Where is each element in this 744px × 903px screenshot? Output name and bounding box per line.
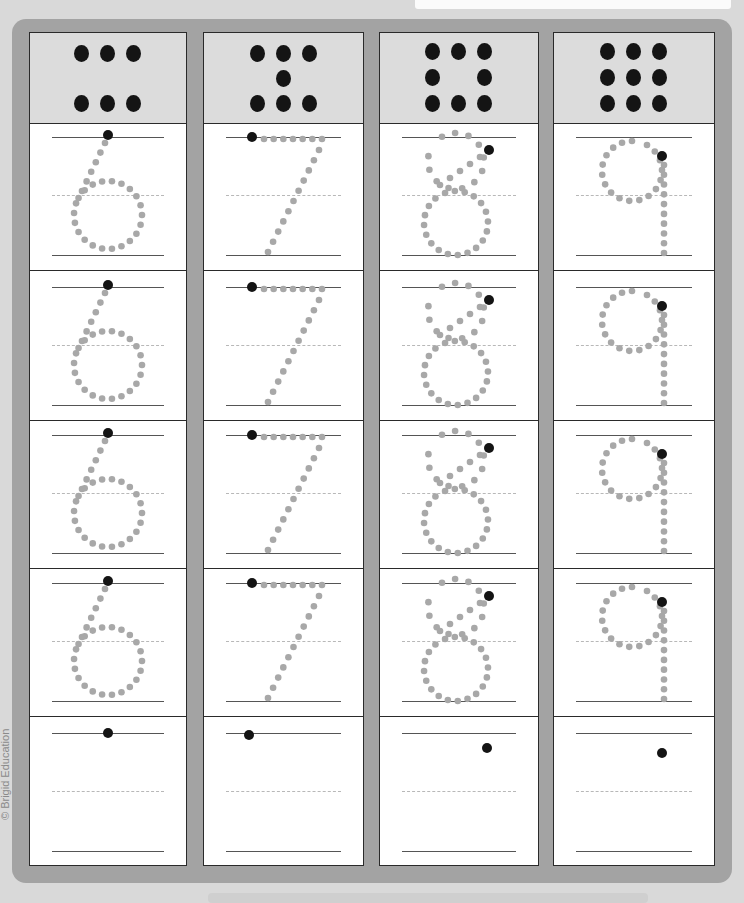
digit-7-trace-path (204, 569, 362, 719)
count-dot (425, 69, 440, 86)
count-dot (477, 95, 492, 112)
start-dot (484, 295, 494, 305)
digit-8-trace-path (380, 273, 537, 423)
digit-8-trace-path (380, 123, 537, 273)
digit-7-trace-path (204, 123, 362, 273)
count-dot (302, 95, 317, 112)
start-dot (657, 151, 667, 161)
count-dot (477, 69, 492, 86)
dot-card-9 (554, 33, 714, 124)
digit-7-trace-path (204, 421, 362, 571)
digit-7-trace-path (204, 273, 362, 423)
start-dot (247, 282, 257, 292)
start-dot (484, 591, 494, 601)
trace-cell[interactable] (30, 569, 186, 717)
dot-card-7 (204, 33, 363, 124)
count-dot (276, 95, 291, 112)
count-dot (100, 95, 115, 112)
count-dot (600, 69, 615, 86)
count-dot (600, 43, 615, 60)
blank-write-cell[interactable] (204, 719, 363, 865)
start-dot (484, 145, 494, 155)
count-dot (626, 69, 641, 86)
top-white-box (415, 0, 731, 9)
start-dot (657, 597, 667, 607)
start-dot (657, 301, 667, 311)
trace-cell[interactable] (204, 421, 363, 569)
start-dot (247, 578, 257, 588)
count-dot (250, 95, 265, 112)
count-dot (302, 45, 317, 62)
trace-cell[interactable] (380, 273, 538, 421)
digit-6-trace-path (30, 273, 185, 423)
trace-cell[interactable] (380, 569, 538, 717)
count-dot (126, 45, 141, 62)
start-dot (247, 132, 257, 142)
count-dot (276, 45, 291, 62)
trace-cell[interactable] (204, 273, 363, 421)
count-dot (126, 95, 141, 112)
count-dot (451, 43, 466, 60)
count-dot (250, 45, 265, 62)
count-dot (451, 95, 466, 112)
count-dot (74, 45, 89, 62)
count-dot (477, 43, 492, 60)
start-dot-only (380, 719, 537, 869)
start-dot (484, 443, 494, 453)
dot-card-8 (380, 33, 538, 124)
column-digit-7 (203, 32, 364, 866)
digit-8-trace-path (380, 421, 537, 571)
trace-cell[interactable] (554, 273, 714, 421)
count-dot (425, 43, 440, 60)
count-dot (600, 95, 615, 112)
bottom-box (208, 893, 648, 903)
trace-cell[interactable] (30, 421, 186, 569)
trace-cell[interactable] (30, 273, 186, 421)
count-dot (276, 70, 291, 87)
column-digit-6 (29, 32, 187, 866)
trace-cell[interactable] (554, 569, 714, 717)
count-dot (652, 95, 667, 112)
trace-cell[interactable] (204, 123, 363, 271)
count-dot (652, 43, 667, 60)
trace-cell[interactable] (30, 123, 186, 271)
blank-write-cell[interactable] (554, 719, 714, 865)
trace-cell[interactable] (380, 421, 538, 569)
copyright-text: © Brigid Education (0, 729, 11, 820)
digit-9-trace-path (554, 273, 713, 423)
digit-9-trace-path (554, 421, 713, 571)
blank-write-cell[interactable] (30, 719, 186, 865)
trace-cell[interactable] (554, 123, 714, 271)
start-dot (247, 430, 257, 440)
digit-6-trace-path (30, 569, 185, 719)
digit-9-trace-path (554, 569, 713, 719)
start-dot-only (204, 719, 362, 869)
count-dot (652, 69, 667, 86)
count-dot (626, 95, 641, 112)
blank-write-cell[interactable] (380, 719, 538, 865)
count-dot (100, 45, 115, 62)
start-dot (103, 576, 113, 586)
trace-cell[interactable] (204, 569, 363, 717)
start-dot-only (30, 719, 185, 869)
digit-6-trace-path (30, 421, 185, 571)
start-dot (103, 280, 113, 290)
trace-cell[interactable] (380, 123, 538, 271)
column-digit-9 (553, 32, 715, 866)
count-dot (626, 43, 641, 60)
start-dot (657, 449, 667, 459)
start-dot-only (554, 719, 713, 869)
start-dot (103, 428, 113, 438)
column-digit-8 (379, 32, 539, 866)
digit-9-trace-path (554, 123, 713, 273)
trace-cell[interactable] (554, 421, 714, 569)
start-dot (103, 130, 113, 140)
dot-card-6 (30, 33, 186, 124)
count-dot (425, 95, 440, 112)
digit-6-trace-path (30, 123, 185, 273)
digit-8-trace-path (380, 569, 537, 719)
count-dot (74, 95, 89, 112)
